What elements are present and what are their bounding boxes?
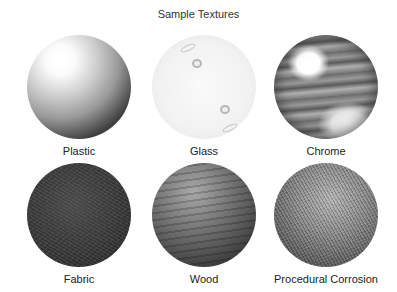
texture-label: Plastic: [14, 145, 144, 157]
texture-label: Wood: [139, 273, 269, 285]
texture-label: Glass: [139, 145, 269, 157]
glass-reflection-icon: [220, 105, 230, 114]
texture-plastic: Plastic: [14, 35, 144, 157]
glass-streak-icon: [221, 122, 238, 134]
glass-reflection-icon: [192, 59, 202, 68]
fabric-sphere-image: [27, 163, 131, 267]
glass-sphere-image: [152, 35, 256, 139]
page-title: Sample Textures: [0, 8, 397, 20]
texture-chrome: Chrome: [261, 35, 391, 157]
texture-procedural-corrosion: Procedural Corrosion: [261, 163, 391, 285]
texture-label: Chrome: [261, 145, 391, 157]
chrome-sphere-image: [274, 35, 378, 139]
texture-fabric: Fabric: [14, 163, 144, 285]
wood-sphere-image: [152, 163, 256, 267]
texture-label: Fabric: [14, 273, 144, 285]
plastic-sphere-image: [27, 35, 131, 139]
corrosion-sphere-image: [274, 163, 378, 267]
texture-glass: Glass: [139, 35, 269, 157]
texture-wood: Wood: [139, 163, 269, 285]
texture-label: Procedural Corrosion: [261, 273, 391, 285]
glass-streak-icon: [179, 42, 196, 54]
